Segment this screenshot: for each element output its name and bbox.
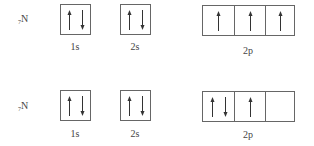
element-label: 7N [18,13,28,25]
2p-box-1 [203,92,234,121]
orbital-1s [60,90,91,121]
electron-pair [121,5,150,34]
spin-up-arrow-icon [247,97,254,117]
orbital-label-2p: 2p [228,129,268,140]
spin-down-arrow-icon [79,96,86,116]
spin-up-arrow-icon [215,11,222,31]
element-symbol: N [21,100,28,111]
orbital-2p [202,91,295,122]
spin-up-arrow-icon [209,97,216,117]
orbital-label-2s: 2s [115,41,155,52]
2p-box-2 [234,92,265,121]
spin-down-arrow-icon [139,96,146,116]
configuration-row-1: 7N 1s 2s 2p [0,0,314,73]
electron-pair [61,91,90,120]
orbital-label-2p: 2p [228,45,268,56]
element-symbol: N [21,13,28,24]
electron-pair [61,5,90,34]
orbital-1s [60,4,91,35]
orbital-label-2s: 2s [115,128,155,139]
electron-pair [121,91,150,120]
configuration-row-2: 7N 1s 2s 2p [0,73,314,146]
element-label: 7N [18,100,28,112]
2p-box-2 [234,6,265,35]
2p-box-3-empty [265,92,294,121]
spin-down-arrow-icon [139,10,146,30]
spin-up-arrow-icon [247,11,254,31]
orbital-label-1s: 1s [55,128,95,139]
orbital-label-1s: 1s [55,41,95,52]
spin-up-arrow-icon [126,96,133,116]
spin-up-arrow-icon [126,10,133,30]
2p-box-3 [265,6,294,35]
spin-up-arrow-icon [277,11,284,31]
spin-down-arrow-icon [79,10,86,30]
orbital-2p [202,5,295,36]
2p-box-1 [203,6,234,35]
orbital-2s [120,4,151,35]
spin-down-arrow-icon [222,97,229,117]
spin-up-arrow-icon [66,10,73,30]
spin-up-arrow-icon [66,96,73,116]
orbital-2s [120,90,151,121]
